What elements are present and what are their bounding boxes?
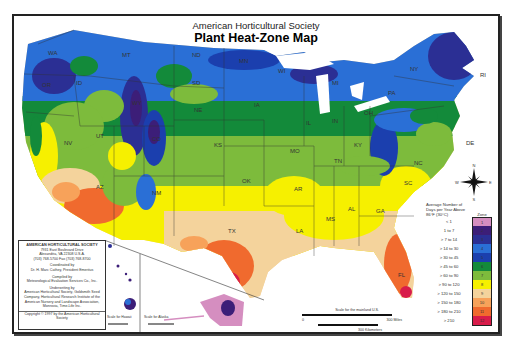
scale-miles: 300 Miles — [387, 318, 402, 322]
compass-w-label: W — [455, 180, 459, 185]
legend-swatch: 4 — [472, 244, 492, 253]
legend-range: > 180 to 210 — [426, 309, 472, 314]
legend-range: > 7 to 14 — [426, 237, 472, 242]
scale-bar-km — [318, 324, 378, 326]
legend-row: > 45 to 606 — [426, 262, 496, 271]
legend-row: > 30 to 455 — [426, 253, 496, 262]
legend-range: > 60 to 90 — [426, 273, 472, 278]
legend-zone-header: Zone — [472, 202, 492, 217]
info-org: AMERICAN HORTICULTURAL SOCIETY — [19, 243, 105, 248]
info-compiler: Meteorological Evaluation Services Co., … — [27, 279, 97, 283]
map-title: Plant Heat-Zone Map — [14, 31, 498, 45]
info-coordinated-label: Coordinated by — [50, 263, 74, 267]
scale-zero: 0 — [302, 318, 304, 322]
info-underwriters: American Horticultural Society, Goldsmit… — [24, 290, 100, 308]
legend-row: 1 to 72 — [426, 226, 496, 235]
legend-range: < 1 — [426, 219, 472, 224]
compass-rose-icon: NSEW — [455, 163, 492, 202]
legend-swatch: 1 — [472, 217, 492, 227]
legend-swatch: 12 — [472, 316, 492, 326]
legend-rows: < 111 to 72> 7 to 143> 14 to 304> 30 to … — [426, 217, 496, 325]
compass-e-label: E — [489, 180, 492, 185]
info-box: AMERICAN HORTICULTURAL SOCIETY 7931 East… — [18, 240, 106, 330]
legend-row: > 150 to 18010 — [426, 298, 496, 307]
legend-swatch: 3 — [472, 235, 492, 244]
legend-heading: Average Number of Days per Year Above 86… — [426, 202, 472, 217]
hawaii-scale-label: Scale for Hawaii — [107, 315, 132, 319]
legend-row: > 14 to 304 — [426, 244, 496, 253]
legend-range: > 210 — [426, 318, 472, 323]
legend-range: > 30 to 45 — [426, 255, 472, 260]
legend-range: > 150 to 180 — [426, 300, 472, 305]
compass-n-label: N — [473, 163, 476, 168]
legend-range: 1 to 7 — [426, 228, 472, 233]
legend-swatch: 10 — [472, 298, 492, 307]
legend-row: > 60 to 907 — [426, 271, 496, 280]
legend-swatch: 9 — [472, 289, 492, 298]
legend-swatch: 2 — [472, 226, 492, 235]
info-copyright: Copyright © 1997 by the American Horticu… — [19, 311, 105, 321]
map-subtitle: American Horticultural Society — [14, 20, 498, 31]
legend-range: > 120 to 150 — [426, 291, 472, 296]
legend-row: < 11 — [426, 217, 496, 226]
legend-swatch: 7 — [472, 271, 492, 280]
legend-row: > 120 to 1509 — [426, 289, 496, 298]
info-phone: (703) 768-5700 Fax (703) 768-8700 — [19, 257, 105, 262]
legend-swatch: 8 — [472, 280, 492, 289]
legend: Average Number of Days per Year Above 86… — [426, 202, 496, 325]
legend-swatch: 6 — [472, 262, 492, 271]
title-block: American Horticultural Society Plant Hea… — [14, 20, 498, 45]
alaska-scale-label: Scale for Alaska — [144, 315, 168, 319]
legend-range: > 90 to 120 — [426, 282, 472, 287]
info-compiled-label: Compiled by — [52, 275, 72, 279]
legend-range: > 45 to 60 — [426, 264, 472, 269]
info-coordinator: Dr. H. Marc Cathey, President Emeritus — [31, 268, 94, 272]
scale-label: Scale for the mainland U.S. — [302, 308, 412, 312]
mainland-scale: Scale for the mainland U.S. 0 300 Miles … — [302, 308, 412, 332]
info-underwriting-label: Underwriting by — [50, 286, 75, 290]
legend-range: > 14 to 30 — [426, 246, 472, 251]
scale-bar-miles — [302, 314, 392, 316]
legend-row: > 21012 — [426, 316, 496, 325]
map-frame: American Horticultural Society Plant Hea… — [12, 14, 500, 334]
legend-row: > 7 to 143 — [426, 235, 496, 244]
legend-row: > 90 to 1208 — [426, 280, 496, 289]
scale-km: 300 Kilometers — [358, 328, 382, 332]
legend-swatch: 5 — [472, 253, 492, 262]
